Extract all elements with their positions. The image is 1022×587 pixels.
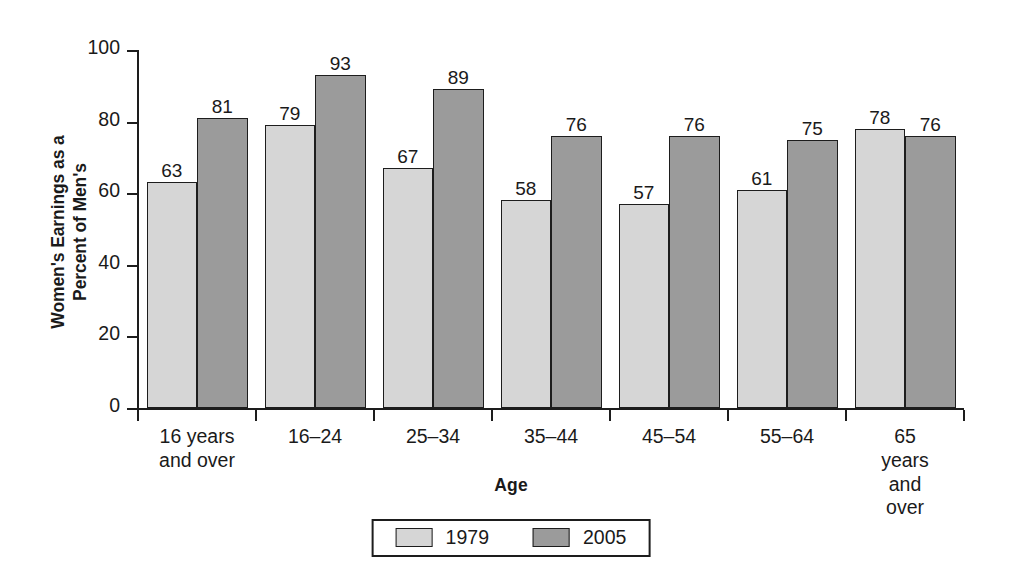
x-axis-tick [137, 410, 139, 421]
bar-value-label: 81 [212, 97, 233, 116]
bar-2005-0[interactable]: 81 [197, 118, 248, 408]
bar-1979-6[interactable]: 78 [855, 129, 906, 408]
bar-1979-2[interactable]: 67 [383, 168, 434, 408]
y-axis-title: Women's Earnings as a Percent of Men's [43, 62, 95, 402]
legend-swatch-icon [533, 528, 570, 547]
y-axis-tick-label: 40 [98, 253, 120, 273]
y-axis-tick-label: 60 [98, 181, 120, 201]
x-axis-tick [491, 410, 493, 421]
bar-value-label: 58 [515, 179, 536, 198]
bar-2005-6[interactable]: 76 [905, 136, 956, 408]
bar-2005-5[interactable]: 75 [787, 140, 838, 409]
bar-1979-5[interactable]: 61 [737, 190, 788, 408]
bar-value-label: 93 [330, 54, 351, 73]
legend-item-2005[interactable]: 2005 [533, 528, 626, 548]
y-axis-line [137, 50, 139, 409]
y-axis-tick: 20 [127, 336, 137, 338]
bar-1979-3[interactable]: 58 [501, 200, 552, 408]
bar-value-label: 79 [279, 104, 300, 123]
y-axis-tick: 40 [127, 265, 137, 267]
y-axis-title-line-2: Percent of Men's [69, 163, 91, 301]
bar-chart-figure: Women's Earnings as a Percent of Men's 0… [0, 0, 1022, 587]
bar-value-label: 67 [397, 147, 418, 166]
legend-label: 1979 [446, 528, 489, 548]
x-axis-title: Age [0, 475, 1022, 496]
bar-2005-2[interactable]: 89 [433, 89, 484, 408]
bar-value-label: 63 [161, 161, 182, 180]
x-axis-tick [845, 410, 847, 421]
x-axis-category-label: 65 years and over [876, 425, 934, 520]
x-axis-tick [373, 410, 375, 421]
y-axis-tick: 100 [127, 50, 137, 52]
x-axis-tick [609, 410, 611, 421]
x-axis-category-label: 16 years and over [159, 425, 235, 473]
bar-value-label: 78 [869, 108, 890, 127]
bar-value-label: 75 [802, 119, 823, 138]
x-axis-category-label: 55–64 [760, 425, 814, 449]
y-axis-tick-label: 100 [87, 38, 120, 58]
bar-2005-4[interactable]: 76 [669, 136, 720, 408]
x-axis-category-label: 16–24 [288, 425, 342, 449]
y-axis-tick-label: 80 [98, 110, 120, 130]
x-axis-category-label: 25–34 [406, 425, 460, 449]
bar-value-label: 76 [684, 115, 705, 134]
bar-value-label: 57 [633, 183, 654, 202]
y-axis-title-line-1: Women's Earnings as a [47, 135, 69, 328]
bar-1979-0[interactable]: 63 [147, 182, 198, 408]
legend-item-1979[interactable]: 1979 [396, 528, 489, 548]
x-axis-line [127, 408, 964, 410]
bar-value-label: 76 [920, 115, 941, 134]
x-axis-tick [727, 410, 729, 421]
x-axis-category-label: 45–54 [642, 425, 696, 449]
legend-swatch-icon [396, 528, 433, 547]
y-axis-tick: 80 [127, 122, 137, 124]
bar-value-label: 61 [751, 169, 772, 188]
x-axis-tick [255, 410, 257, 421]
bar-1979-4[interactable]: 57 [619, 204, 670, 408]
y-axis-tick-label: 20 [98, 324, 120, 344]
legend-label: 2005 [583, 528, 626, 548]
y-axis-tick: 0 [127, 408, 137, 410]
y-axis-tick: 60 [127, 193, 137, 195]
bar-value-label: 76 [566, 115, 587, 134]
plot-area: 020406080100 638179936789587657766175787… [137, 50, 963, 408]
chart-legend: 19792005 [372, 519, 651, 557]
bar-2005-1[interactable]: 93 [315, 75, 366, 408]
x-axis-tick [963, 410, 965, 421]
bar-1979-1[interactable]: 79 [265, 125, 316, 408]
y-axis-tick-label: 0 [109, 396, 120, 416]
bar-2005-3[interactable]: 76 [551, 136, 602, 408]
x-axis-category-label: 35–44 [524, 425, 578, 449]
bar-value-label: 89 [448, 68, 469, 87]
